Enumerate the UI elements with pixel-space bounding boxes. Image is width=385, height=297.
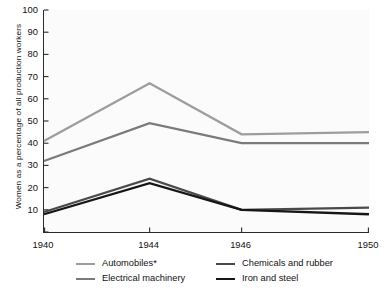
y-tick-label-60: 60 [4,94,38,103]
y-tick-label-50: 50 [4,116,38,125]
series-line-automobiles [44,83,369,141]
legend-swatch-icon [76,278,95,280]
y-tick-label-10: 10 [4,205,38,214]
legend-item-electrical-machinery[interactable]: Electrical machinery [76,273,216,284]
x-tick-label-1944: 1944 [127,240,171,249]
legend-label: Electrical machinery [102,273,185,284]
y-tick-label-30: 30 [4,160,38,169]
x-tick-label-1950: 1950 [346,240,385,249]
series-line-electrical-machinery [44,123,369,161]
series-line-chemicals-and-rubber [44,179,369,212]
legend-swatch-icon [216,263,235,265]
y-tick-label-20: 20 [4,183,38,192]
legend-label: Iron and steel [242,273,298,284]
x-tick-label-1940: 1940 [21,240,65,249]
y-tick-label-100: 100 [4,5,38,14]
y-tick-label-90: 90 [4,27,38,36]
legend-item-automobiles[interactable]: Automobiles* [76,258,216,269]
legend-item-chemicals-and-rubber[interactable]: Chemicals and rubber [216,258,376,269]
y-tick-label-80: 80 [4,49,38,58]
series-lines-svg [44,10,369,232]
y-tick-label-40: 40 [4,138,38,147]
plot-area [43,10,369,233]
legend-label: Automobiles* [102,258,157,269]
legend-swatch-icon [76,263,95,265]
chart-figure: Women as a percentage of all production … [0,0,385,297]
chart-legend: Automobiles*Chemicals and rubberElectric… [76,258,376,284]
y-tick-label-70: 70 [4,72,38,81]
x-tick-label-1946: 1946 [219,240,263,249]
legend-swatch-icon [216,278,235,280]
legend-item-iron-and-steel[interactable]: Iron and steel [216,273,376,284]
data-series-group [44,83,369,214]
legend-label: Chemicals and rubber [242,258,333,269]
